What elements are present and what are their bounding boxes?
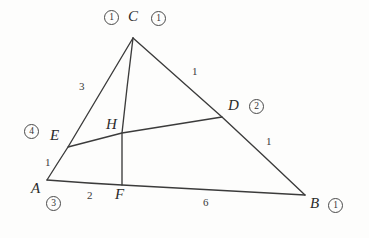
- segment-length-cd: 1: [192, 66, 198, 77]
- circled-number-4-at-e: 4: [24, 124, 39, 139]
- circled-number-1-left-of-c: 1: [104, 10, 119, 25]
- cevian-CF: [122, 38, 133, 185]
- segment-length-ce: 3: [79, 81, 85, 92]
- segment-length-db: 1: [266, 136, 272, 147]
- edge-AB: [47, 180, 305, 195]
- vertex-label-D: D: [228, 98, 239, 113]
- cevian-ED: [68, 117, 222, 147]
- vertex-label-F: F: [115, 187, 124, 202]
- circled-number-1-right-of-c: 1: [151, 11, 166, 26]
- segment-length-af: 2: [87, 190, 93, 201]
- vertex-label-E: E: [50, 128, 59, 143]
- vertex-label-A: A: [31, 181, 40, 196]
- edge-CB: [133, 38, 305, 195]
- edge-AC: [47, 38, 133, 180]
- vertex-label-C: C: [128, 9, 138, 24]
- geometry-figure: C D E H A F B 3 1 1 1 2 6 1 1 2 4 3 1: [0, 0, 369, 238]
- vertex-label-B: B: [310, 196, 319, 211]
- segment-length-ae: 1: [45, 157, 51, 168]
- circled-number-3-at-a: 3: [46, 196, 61, 211]
- segment-length-fb: 6: [203, 197, 209, 208]
- circled-number-2-at-d: 2: [249, 99, 264, 114]
- vertex-label-H: H: [106, 117, 117, 132]
- circled-number-1-at-b: 1: [328, 198, 343, 213]
